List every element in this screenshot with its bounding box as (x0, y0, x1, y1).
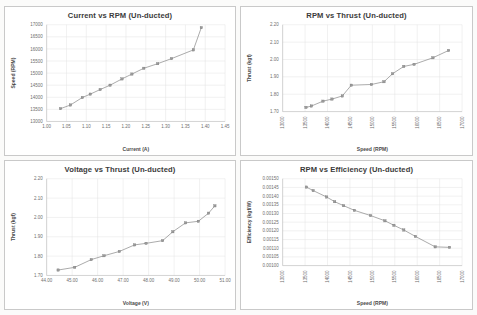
data-point-marker (184, 222, 186, 224)
y-axis-label: Thrust (kgf) (10, 213, 16, 241)
x-tick-label: 51.00 (220, 278, 232, 283)
data-point-marker (447, 49, 449, 51)
x-tick-label: 13000 (280, 270, 285, 283)
y-tick-label: 2.20 (34, 176, 43, 181)
x-tick-label: 14500 (348, 116, 353, 129)
x-tick-label: 1.00 (42, 124, 51, 129)
data-point-marker (341, 95, 343, 97)
x-tick-label: 1.15 (102, 124, 111, 129)
y-tick-label: 0.00105 (263, 254, 280, 259)
data-point-marker (156, 62, 158, 64)
data-point-marker (170, 57, 172, 59)
x-tick-label: 46.00 (92, 278, 104, 283)
x-tick-label: 15000 (370, 116, 375, 129)
data-series-line (58, 206, 215, 270)
x-tick-label: 1.05 (62, 124, 71, 129)
y-tick-label: 1.80 (34, 254, 43, 259)
chart-card-current-vs-rpm[interactable]: Current vs RPM (Un-ducted) 1300013500140… (4, 6, 236, 156)
data-point-marker (200, 26, 202, 28)
data-point-marker (99, 88, 101, 90)
x-tick-label: 50.00 (194, 278, 206, 283)
data-point-marker (89, 93, 91, 95)
y-tick-label: 2.10 (34, 196, 43, 201)
data-point-marker (161, 239, 163, 241)
data-point-marker (90, 258, 92, 260)
charts-page: Current vs RPM (Un-ducted) 1300013500140… (0, 0, 477, 315)
y-tick-label: 15000 (30, 71, 43, 76)
x-tick-label: 13000 (280, 116, 285, 129)
data-point-marker (81, 96, 83, 98)
data-point-marker (413, 63, 415, 65)
chart-plot-rpm-vs-efficiency: 0.001000.001050.001100.001150.001200.001… (241, 161, 472, 309)
x-tick-label: 44.00 (41, 278, 53, 283)
data-point-marker (322, 100, 324, 102)
data-point-marker (143, 67, 145, 69)
data-point-marker (350, 84, 352, 86)
x-tick-label: 48.00 (143, 278, 155, 283)
x-tick-label: 1.40 (201, 124, 210, 129)
y-tick-label: 0.00135 (263, 202, 280, 207)
data-point-marker (121, 78, 123, 80)
y-tick-label: 14500 (30, 83, 43, 88)
y-tick-label: 17000 (30, 22, 43, 27)
x-axis-label: Current (A) (123, 146, 150, 152)
data-point-marker (432, 57, 434, 59)
x-tick-label: 13500 (303, 270, 308, 283)
chart-card-rpm-vs-thrust[interactable]: RPM vs Thrust (Un-ducted) 1.701.801.902.… (240, 6, 473, 156)
y-tick-label: 15500 (30, 59, 43, 64)
data-point-marker (391, 73, 393, 75)
data-point-marker (192, 49, 194, 51)
data-point-marker (414, 235, 416, 237)
x-tick-label: 1.35 (181, 124, 190, 129)
x-tick-label: 16500 (437, 116, 442, 129)
chart-card-rpm-vs-efficiency[interactable]: RPM vs Efficiency (Un-ducted) 0.001000.0… (240, 160, 473, 310)
y-tick-label: 1.90 (34, 234, 43, 239)
data-point-marker (172, 231, 174, 233)
x-tick-label: 16500 (437, 270, 442, 283)
y-tick-label: 13000 (30, 119, 43, 124)
data-point-marker (69, 104, 71, 106)
data-point-marker (305, 186, 307, 188)
x-axis-label: Voltage (V) (123, 300, 149, 306)
data-point-marker (312, 189, 314, 191)
data-point-marker (448, 246, 450, 248)
x-tick-label: 17000 (460, 270, 465, 283)
data-point-marker (197, 220, 199, 222)
x-tick-label: 15500 (392, 270, 397, 283)
data-point-marker (383, 81, 385, 83)
y-tick-label: 1.80 (270, 92, 279, 97)
y-tick-label: 13500 (30, 107, 43, 112)
data-point-marker (393, 224, 395, 226)
x-tick-label: 14000 (325, 270, 330, 283)
y-tick-label: 1.70 (34, 273, 43, 278)
x-tick-label: 17000 (460, 116, 465, 129)
x-tick-label: 15500 (392, 116, 397, 129)
x-tick-label: 16000 (415, 270, 420, 283)
data-point-marker (403, 229, 405, 231)
data-point-marker (118, 250, 120, 252)
data-point-marker (305, 106, 307, 108)
x-tick-label: 1.45 (221, 124, 230, 129)
y-tick-label: 14000 (30, 95, 43, 100)
data-point-marker (133, 244, 135, 246)
y-tick-label: 0.00125 (263, 220, 280, 225)
data-point-marker (59, 107, 61, 109)
x-tick-label: 15000 (370, 270, 375, 283)
y-tick-label: 0.00150 (263, 176, 280, 181)
x-tick-label: 49.00 (169, 278, 181, 283)
data-point-marker (384, 220, 386, 222)
data-point-marker (57, 269, 59, 271)
data-point-marker (145, 242, 147, 244)
y-tick-label: 2.00 (270, 57, 279, 62)
data-point-marker (131, 73, 133, 75)
y-tick-label: 16000 (30, 47, 43, 52)
y-tick-label: 0.00120 (263, 228, 280, 233)
data-point-marker (369, 214, 371, 216)
x-tick-label: 1.10 (82, 124, 91, 129)
y-tick-label: 0.00130 (263, 211, 280, 216)
chart-card-voltage-vs-thrust[interactable]: Voltage vs Thrust (Un-ducted) 1.701.801.… (4, 160, 236, 310)
x-tick-label: 13500 (303, 116, 308, 129)
x-tick-label: 45.00 (67, 278, 79, 283)
y-tick-label: 16500 (30, 34, 43, 39)
y-tick-label: 0.00100 (263, 263, 280, 268)
